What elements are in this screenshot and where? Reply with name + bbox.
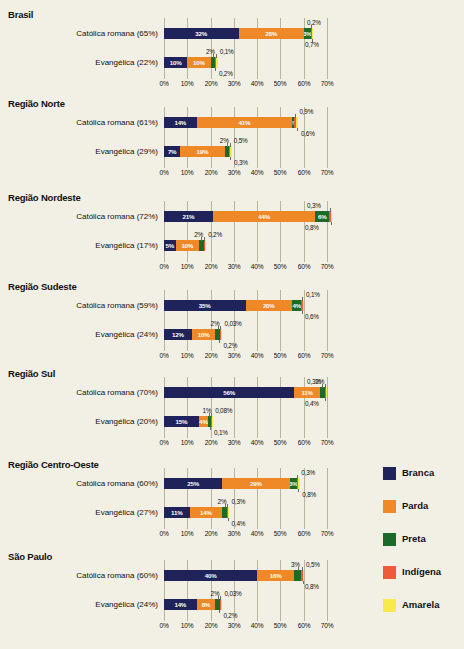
segment-value-label: 10% — [187, 57, 210, 68]
axis-tick-label: 10% — [181, 530, 194, 537]
axis-tick-label: 20% — [205, 263, 218, 270]
callout-leader-line — [297, 128, 298, 131]
bar-segment-amarela — [221, 599, 222, 610]
segment-callout-label: 0,03% — [224, 320, 241, 327]
axis-tick-label: 10% — [181, 263, 194, 270]
plot-area: Católica romana (72%)21%44%6%0,3%0,8%Eva… — [164, 192, 327, 278]
segment-callout-label: 0,5% — [306, 561, 320, 568]
segment-value-label: 6% — [315, 211, 329, 222]
axis-tick-label: 0% — [159, 439, 168, 446]
bar-segment-parda: 19% — [180, 146, 224, 157]
axis-tick-label: 20% — [205, 439, 218, 446]
gridline — [327, 560, 328, 621]
axis-tick-mark — [304, 75, 305, 79]
region-title: Região Centro-Oeste — [8, 459, 99, 470]
axis-tick-mark — [304, 617, 305, 621]
callout-leader-line — [322, 384, 323, 388]
axis-tick-label: 60% — [298, 439, 311, 446]
segment-callout-label: 0,2% — [307, 19, 321, 26]
axis-tick-label: 30% — [228, 80, 241, 87]
axis-tick-label: 30% — [228, 530, 241, 537]
bar-segment-parda: 8% — [197, 599, 216, 610]
axis-tick-label: 20% — [205, 530, 218, 537]
region-title: Região Sudeste — [8, 281, 76, 292]
legend-swatch-indigena — [383, 566, 396, 579]
plot-area: Católica romana (70%)56%11%2%0,3%0,4%Eva… — [164, 368, 327, 454]
segment-value-label: 4% — [292, 300, 301, 311]
axis-tick-mark — [280, 347, 281, 351]
axis-tick-mark — [211, 347, 212, 351]
bar-segment-amarela — [228, 507, 229, 518]
bar-segment-parda: 29% — [222, 478, 290, 489]
axis-tick-label: 50% — [274, 80, 287, 87]
segment-value-label: 10% — [164, 57, 187, 68]
axis-tick-label: 60% — [298, 80, 311, 87]
callout-leader-line — [330, 208, 331, 212]
bar-segment-parda: 4% — [199, 416, 208, 427]
bar-row-label: Evangélica (27%) — [0, 508, 158, 517]
axis-tick-mark — [280, 434, 281, 438]
axis-tick-label: 10% — [181, 80, 194, 87]
callout-leader-line — [302, 567, 303, 571]
axis-tick-label: 30% — [228, 622, 241, 629]
bar-segment-parda: 11% — [294, 387, 320, 398]
callout-leader-line — [227, 143, 228, 147]
segment-callout-label: 0,4% — [305, 400, 319, 407]
callout-leader-line — [228, 518, 229, 521]
segment-callout-label: 0,3% — [307, 202, 321, 209]
bar-row-label: Católica romana (65%) — [0, 29, 158, 38]
segment-callout-label: 0,8% — [302, 491, 316, 498]
stacked-bar: 5%10% — [164, 240, 206, 251]
segment-value-label: 28% — [239, 28, 304, 39]
axis-tick-label: 60% — [298, 169, 311, 176]
axis-tick-label: 70% — [321, 439, 334, 446]
x-axis: 0%10%20%30%40%50%60%70% — [164, 262, 327, 274]
axis-tick-mark — [164, 347, 165, 351]
axis-tick-label: 20% — [205, 352, 218, 359]
segment-callout-label: 0,7% — [305, 41, 319, 48]
callout-leader-line — [230, 157, 231, 160]
callout-leader-line — [311, 25, 312, 29]
axis-tick-mark — [257, 434, 258, 438]
callout-leader-line — [201, 237, 202, 241]
bar-segment-amarela — [230, 146, 231, 157]
axis-tick-label: 0% — [159, 530, 168, 537]
axis-tick-mark — [187, 525, 188, 529]
bar-row-label: Evangélica (17%) — [0, 241, 158, 250]
axis-tick-label: 70% — [321, 352, 334, 359]
callout-leader-line — [219, 340, 220, 343]
legend-swatch-amarela — [383, 599, 396, 612]
segment-value-label: 15% — [164, 416, 199, 427]
stacked-bar: 14%41%1% — [164, 117, 298, 128]
bar-segment-branca: 35% — [164, 300, 246, 311]
region-block: Região NorteCatólica romana (61%)14%41%1… — [0, 98, 464, 184]
axis-tick-label: 30% — [228, 263, 241, 270]
legend-label: Amarela — [402, 599, 440, 610]
region-block: BrasilCatólica romana (65%)32%28%3%0,2%0… — [0, 9, 464, 95]
segment-callout-label: 0,8% — [305, 224, 319, 231]
axis-tick-label: 40% — [251, 530, 264, 537]
bar-segment-branca: 40% — [164, 570, 257, 581]
segment-value-label: 19% — [180, 146, 224, 157]
axis-tick-mark — [187, 258, 188, 262]
axis-tick-mark — [187, 75, 188, 79]
callout-leader-line — [204, 237, 205, 241]
axis-tick-mark — [327, 347, 328, 351]
gridline — [327, 107, 328, 168]
axis-tick-mark — [234, 258, 235, 262]
bar-segment-branca: 21% — [164, 211, 213, 222]
bar-row-label: Evangélica (29%) — [0, 147, 158, 156]
axis-tick-label: 20% — [205, 169, 218, 176]
axis-tick-label: 60% — [298, 622, 311, 629]
bar-segment-parda: 10% — [187, 57, 210, 68]
segment-value-label: 16% — [257, 570, 294, 581]
plot-area: Católica romana (60%)40%16%3%0,5%0,8%Eva… — [164, 551, 327, 637]
segment-value-label: 7% — [164, 146, 180, 157]
region-block: Região NordesteCatólica romana (72%)21%4… — [0, 192, 464, 278]
legend-swatch-parda — [383, 500, 396, 513]
bar-row-label: Católica romana (60%) — [0, 479, 158, 488]
callout-leader-line — [220, 596, 221, 600]
x-axis: 0%10%20%30%40%50%60%70% — [164, 529, 327, 541]
bar-segment-parda: 44% — [213, 211, 315, 222]
bar-segment-preta: 6% — [315, 211, 329, 222]
